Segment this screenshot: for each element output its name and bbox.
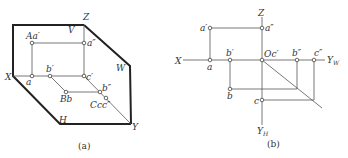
- miter-line: [262, 60, 322, 108]
- point-a-double: [260, 26, 264, 30]
- point-c-double: [312, 58, 316, 62]
- point-b-prime: [48, 74, 52, 78]
- caption-a: (a): [78, 141, 90, 151]
- point-b-double: [295, 58, 299, 62]
- label-c-double: c″: [314, 48, 323, 58]
- label-YH: YH: [257, 126, 269, 137]
- label-YW: YW: [327, 55, 340, 66]
- label-a-double: a″: [265, 23, 274, 33]
- label-V: V: [68, 25, 76, 35]
- label-X: X: [4, 72, 12, 82]
- label-c: c: [254, 96, 259, 106]
- label-b: b: [227, 91, 233, 101]
- label-C: Ccc″: [90, 100, 111, 110]
- label-A: Aa′: [25, 31, 40, 41]
- label-origin: Oc′: [264, 49, 278, 59]
- label-X: X: [174, 56, 182, 66]
- label-b-prime: b′: [226, 48, 234, 58]
- label-b-double: b″: [292, 48, 302, 58]
- label-H: H: [58, 115, 67, 125]
- label-a-prime: a′: [200, 23, 207, 33]
- label-a: a: [207, 62, 212, 72]
- point-c: [260, 98, 264, 102]
- label-W: W: [116, 63, 126, 73]
- figure-a: Z V Aa′ a″ W X b′ a c′ b″ Bb Ccc″ H Y (a…: [4, 12, 139, 151]
- label-Z: Z: [82, 12, 90, 22]
- proj-a: [32, 43, 84, 76]
- label-B: Bb: [59, 94, 73, 104]
- label-b-double: b″: [102, 83, 112, 93]
- point-A: [30, 41, 34, 45]
- proj-a: [210, 28, 262, 60]
- point-a-double: [82, 41, 86, 45]
- point-b-prime: [228, 58, 232, 62]
- label-a: a: [26, 77, 31, 87]
- label-Z: Z: [257, 8, 265, 18]
- label-Y: Y: [132, 122, 139, 132]
- label-c-prime: c′: [86, 72, 93, 82]
- caption-b: (b): [267, 139, 280, 149]
- point-a-prime: [208, 26, 212, 30]
- figure-b: Z a′ a″ X b′ Oc′ b″ c″ YW a b c YH (b): [174, 8, 340, 149]
- label-b-prime: b′: [46, 64, 54, 74]
- proj-b: [230, 60, 297, 89]
- label-a-double: a″: [87, 38, 96, 48]
- projection-diagram: Z V Aa′ a″ W X b′ a c′ b″ Bb Ccc″ H Y (a…: [0, 0, 348, 158]
